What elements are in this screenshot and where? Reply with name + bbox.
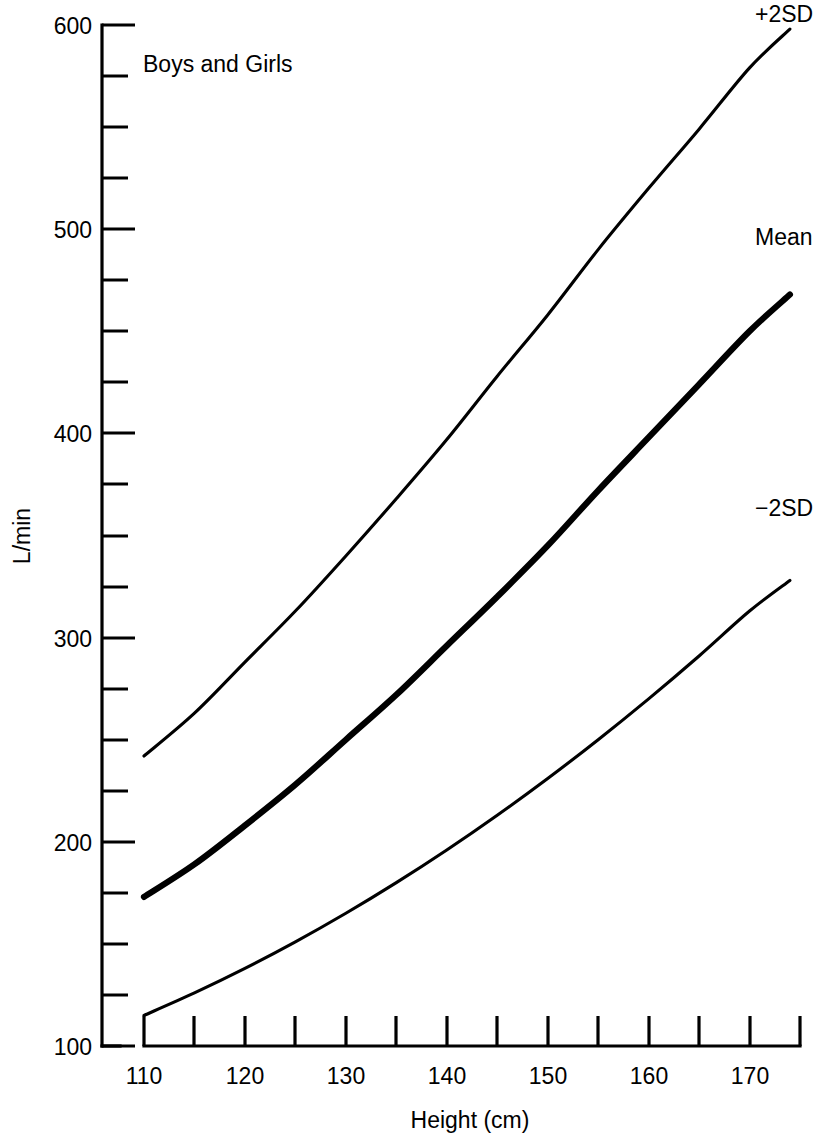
series-label-minus-2sd: −2SD xyxy=(755,495,813,521)
x-tick-label-130: 130 xyxy=(327,1063,365,1089)
y-tick-label-600: 600 xyxy=(54,13,92,39)
x-tick-label-170: 170 xyxy=(731,1063,769,1089)
x-tick-label-160: 160 xyxy=(630,1063,668,1089)
series-label-plus-2sd: +2SD xyxy=(755,1,813,27)
y-tick-label-100: 100 xyxy=(54,1034,92,1060)
x-tick-label-120: 120 xyxy=(226,1063,264,1089)
y-tick-label-400: 400 xyxy=(54,421,92,447)
y-tick-label-200: 200 xyxy=(54,830,92,856)
x-tick-label-140: 140 xyxy=(428,1063,466,1089)
chart-annotation-boys-and-girls: Boys and Girls xyxy=(143,51,293,77)
x-tick-label-110: 110 xyxy=(126,1063,163,1089)
x-tick-label-150: 150 xyxy=(529,1063,567,1089)
chart-background xyxy=(0,0,830,1136)
y-tick-label-300: 300 xyxy=(54,626,92,652)
peak-flow-chart: 600 500 400 300 200 100 110 120 130 140 … xyxy=(0,0,830,1136)
y-axis-title: L/min xyxy=(9,508,35,564)
x-axis-title: Height (cm) xyxy=(411,1107,530,1133)
series-label-mean: Mean xyxy=(755,224,813,250)
chart-page: 600 500 400 300 200 100 110 120 130 140 … xyxy=(0,0,830,1136)
y-tick-label-500: 500 xyxy=(54,217,92,243)
